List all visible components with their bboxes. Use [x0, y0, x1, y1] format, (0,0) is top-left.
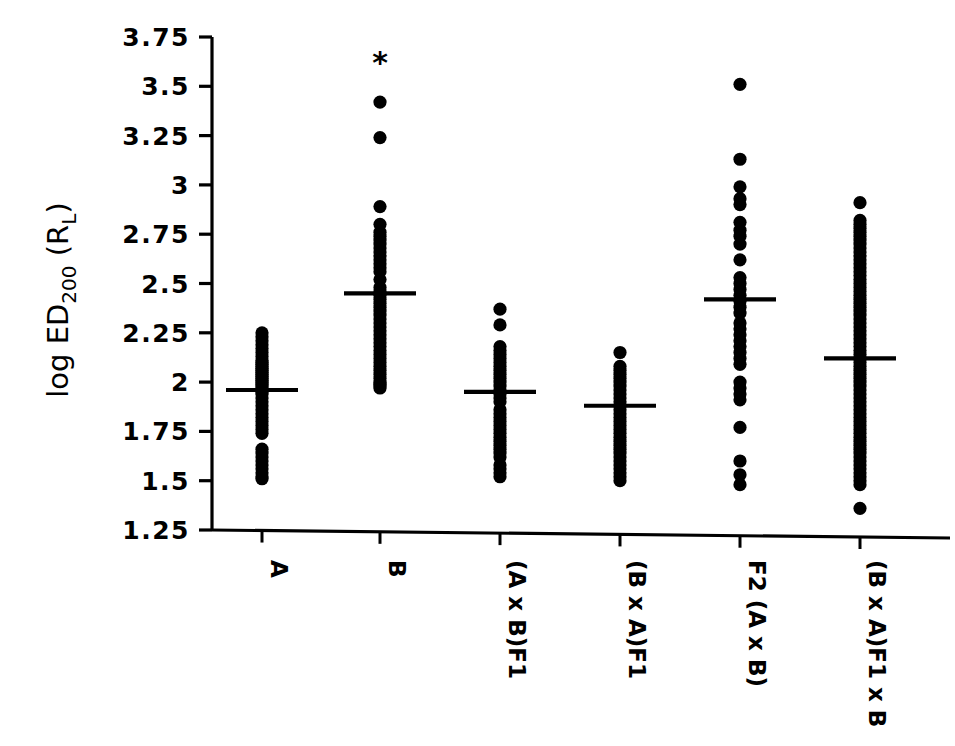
data-point [733, 421, 746, 434]
data-point [733, 478, 746, 491]
y-axis-tick-label: 2.25 [122, 319, 190, 348]
data-point [733, 180, 746, 193]
y-axis-tick-label: 3 [171, 171, 190, 200]
data-point [733, 78, 746, 91]
data-point [733, 237, 746, 250]
y-axis-tick-label: 3.75 [122, 23, 190, 52]
data-point [373, 381, 386, 394]
y-axis-tick-label: 1.5 [141, 467, 190, 496]
y-axis-title: log ED200 (RL) [41, 202, 81, 397]
data-point [853, 196, 866, 209]
annotations-layer: * [372, 45, 388, 80]
data-point [733, 393, 746, 406]
data-points-layer [255, 78, 866, 515]
x-axis-tick-label: F2 (A x B) [744, 560, 770, 687]
x-axis-tick-label: (B x A)F1 [624, 560, 650, 679]
data-point [373, 200, 386, 213]
x-axis-tick-labels: AB(A x B)F1(B x A)F1F2 (A x B)(B x A)F1 … [266, 560, 890, 727]
y-axis: 3.753.53.2532.752.52.2521.751.51.25 [122, 23, 212, 545]
data-point [733, 253, 746, 266]
x-axis-tick-label: (A x B)F1 [504, 560, 530, 679]
data-point [493, 470, 506, 483]
x-axis-tick-label: A [266, 560, 292, 578]
significance-star: * [372, 45, 388, 80]
data-point [733, 358, 746, 371]
data-point [733, 153, 746, 166]
y-axis-tick-label: 2.5 [141, 270, 190, 299]
data-point [493, 303, 506, 316]
chart-figure: 3.753.53.2532.752.52.2521.751.51.25 * lo… [0, 0, 955, 746]
scatter-plot: 3.753.53.2532.752.52.2521.751.51.25 * lo… [0, 0, 955, 746]
data-point [255, 427, 268, 440]
y-axis-tick-label: 1.25 [122, 516, 190, 545]
data-point [373, 131, 386, 144]
x-axis [212, 530, 950, 549]
y-axis-tick-label: 2.75 [122, 220, 190, 249]
y-axis-tick-label: 1.75 [122, 417, 190, 446]
data-point [733, 198, 746, 211]
x-axis-spine [212, 530, 950, 538]
x-axis-tick-label: B [384, 560, 410, 578]
data-point [853, 478, 866, 491]
data-point [853, 502, 866, 515]
data-point [613, 346, 626, 359]
data-point [733, 454, 746, 467]
y-axis-tick-label: 3.25 [122, 122, 190, 151]
data-point [255, 472, 268, 485]
y-axis-tick-label: 3.5 [141, 72, 190, 101]
x-axis-tick-label: (B x A)F1 x B [864, 560, 890, 727]
data-point [613, 474, 626, 487]
y-axis-tick-label: 2 [171, 368, 190, 397]
data-point [493, 318, 506, 331]
y-axis-title-text: log ED200 (RL) [41, 202, 81, 397]
data-point [373, 95, 386, 108]
mean-lines-layer [226, 293, 896, 405]
